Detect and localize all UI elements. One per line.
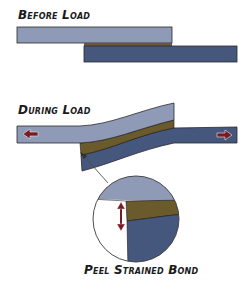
during-load-joint bbox=[17, 103, 237, 171]
magnified-bond-detail bbox=[90, 170, 190, 270]
top-adherend-before bbox=[17, 27, 172, 43]
lap-joint-diagram bbox=[0, 0, 251, 289]
bottom-adherend-before bbox=[84, 46, 237, 62]
before-load-joint bbox=[17, 27, 237, 62]
adhesive-layer-before bbox=[84, 43, 172, 46]
